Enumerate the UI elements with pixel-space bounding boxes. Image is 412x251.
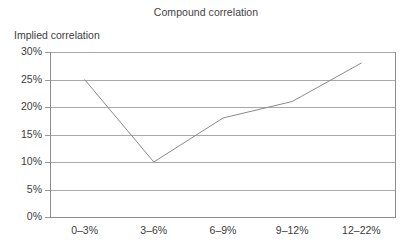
y-axis-tick-label: 10% (0, 155, 42, 167)
x-axis-tick-label: 9–12% (258, 224, 327, 236)
plot-area (50, 52, 396, 218)
y-axis-tick-label: 15% (0, 128, 42, 140)
y-axis-tick-label: 0% (0, 210, 42, 222)
y-axis-tick-label: 20% (0, 100, 42, 112)
x-axis-tick-label: 6–9% (188, 224, 257, 236)
x-axis-tick-label: 0–3% (50, 224, 119, 236)
y-axis-tick-label: 25% (0, 73, 42, 85)
x-axis-tick-label: 3–6% (119, 224, 188, 236)
chart-container: Compound correlation Implied correlation… (0, 0, 412, 251)
series-line-implied-correlation (50, 52, 396, 218)
chart-title: Compound correlation (0, 6, 412, 18)
x-axis-tick-label: 12–22% (327, 224, 396, 236)
y-axis-tick-label: 5% (0, 183, 42, 195)
y-axis-tick-label: 30% (0, 45, 42, 57)
y-axis-label: Implied correlation (14, 29, 100, 41)
